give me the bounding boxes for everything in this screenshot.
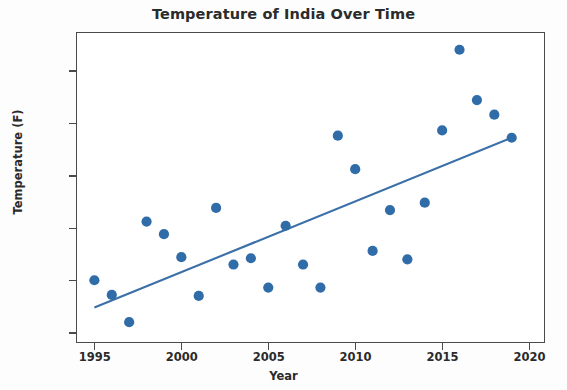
scatter-point (89, 275, 99, 285)
scatter-point (246, 253, 256, 263)
x-tick-label: 2010 (326, 350, 386, 364)
scatter-point (298, 259, 308, 269)
scatter-point (281, 221, 291, 231)
plot-area (76, 32, 545, 343)
y-axis-title: Temperature (F) (11, 62, 25, 262)
x-tick-label: 2020 (499, 350, 559, 364)
scatter-point (350, 164, 360, 174)
scatter-point (507, 133, 517, 143)
x-tick-label: 1995 (65, 350, 125, 364)
x-tick-mark (181, 343, 182, 350)
plot-canvas (77, 33, 543, 341)
trend-line (94, 138, 511, 308)
x-tick-mark (268, 343, 269, 350)
temperature-chart-figure: Temperature of India Over Time 79.580.08… (0, 0, 567, 390)
x-tick-mark (529, 343, 530, 350)
scatter-point (420, 198, 430, 208)
scatter-point (385, 205, 395, 215)
x-tick-label: 2005 (239, 350, 299, 364)
scatter-point (454, 45, 464, 55)
scatter-point (437, 125, 447, 135)
scatter-points (89, 45, 517, 328)
scatter-point (141, 216, 151, 226)
x-tick-mark (442, 343, 443, 350)
scatter-point (472, 95, 482, 105)
x-axis-title: Year (0, 369, 567, 383)
x-tick-label: 2000 (152, 350, 212, 364)
scatter-point (315, 282, 325, 292)
scatter-point (333, 131, 343, 141)
scatter-point (176, 252, 186, 262)
scatter-point (228, 259, 238, 269)
scatter-point (159, 229, 169, 239)
x-tick-label: 2015 (413, 350, 473, 364)
x-tick-mark (355, 343, 356, 350)
scatter-point (211, 203, 221, 213)
scatter-point (263, 282, 273, 292)
scatter-point (402, 254, 412, 264)
scatter-point (124, 317, 134, 327)
x-tick-mark (94, 343, 95, 350)
scatter-point (107, 290, 117, 300)
scatter-point (194, 291, 204, 301)
trend-line-path (94, 138, 511, 308)
scatter-point (367, 246, 377, 256)
scatter-point (489, 110, 499, 120)
